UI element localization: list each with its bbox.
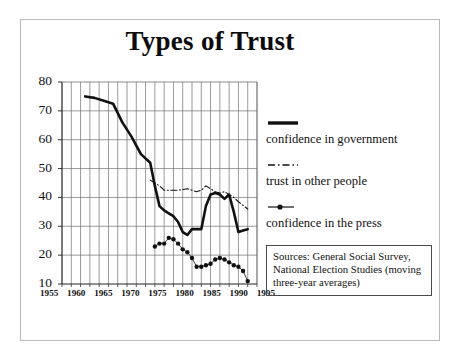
series-point [162,241,166,245]
series-point [213,257,217,261]
series-point [167,236,171,240]
series-point [181,247,185,251]
legend-swatch-line-with-dot-icon [266,200,306,215]
sources-note: Sources: General Social Survey, National… [266,245,432,296]
x-axis-tick-label: 1980 [175,288,193,298]
series-point [204,263,208,267]
legend-key-confidence-in-government [266,116,441,131]
y-axis-tick-label: 40 [26,188,52,204]
series-point [208,262,212,266]
legend-label-confidence-in-government: confidence in government [266,132,441,147]
legend-swatch-dash-dot-icon [266,158,306,173]
series-point [246,279,250,283]
x-axis-tick-label: 1970 [121,288,139,298]
y-axis-tick-label: 70 [26,102,52,118]
legend-key-confidence-in-the-press [266,200,441,215]
series-point [153,244,157,248]
series-point [185,250,189,254]
series-point [171,237,175,241]
series-point [157,241,161,245]
legend-key-trust-in-other-people [266,158,441,173]
y-axis-tick-label: 60 [26,131,52,147]
legend-swatch-solid-thick-icon [266,116,306,131]
series-point [190,256,194,260]
series-point [232,263,236,267]
series-point [194,264,198,268]
legend-label-trust-in-other-people: trust in other people [266,174,441,189]
x-axis-tick-label: 1960 [67,288,85,298]
chart-legend: confidence in government trust in other … [266,116,441,242]
y-axis-tick-label: 80 [26,73,52,89]
series-point [218,256,222,260]
series-point [227,260,231,264]
series-point [236,264,240,268]
series-point [199,264,203,268]
x-axis-tick-label: 1975 [148,288,166,298]
x-axis-tick-label: 1985 [202,288,220,298]
series-line-confidence-in-government [85,96,248,235]
chart-x-axis-labels: 195519601965197019751980198519901995 [40,288,275,298]
y-axis-tick-label: 30 [26,217,52,233]
y-axis-tick-label: 50 [26,160,52,176]
y-axis-tick-label: 20 [26,246,52,262]
slide-canvas: Types of Trust 1020304050607080 19551960… [0,0,460,360]
x-axis-tick-label: 1990 [230,288,248,298]
series-point [222,257,226,261]
series-point [241,269,245,273]
series-point [176,241,180,245]
legend-label-confidence-in-the-press: confidence in the press [266,216,441,231]
chart-gridlines [62,82,257,284]
x-axis-tick-label: 1965 [94,288,112,298]
x-axis-tick-label: 1955 [40,288,58,298]
